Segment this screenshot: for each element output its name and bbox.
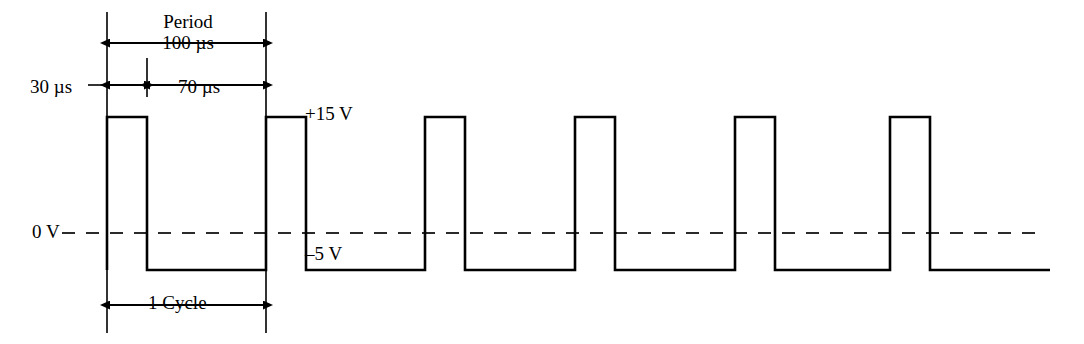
period-value: 100 µs (150, 32, 226, 53)
high-volt-label: +15 V (305, 103, 353, 124)
low-volt-label: –5 V (305, 243, 342, 264)
pulse-width-label: 30 µs (30, 76, 72, 97)
pulse-train-waveform (107, 117, 1050, 270)
cycle-label: 1 Cycle (148, 292, 207, 313)
low-time-label: 70 µs (178, 76, 220, 97)
period-label: Period 100 µs (150, 11, 226, 54)
guide-lines (107, 12, 266, 333)
pulse-waveform-figure: 30 µs 70 µs Period 100 µs 0 V +15 V –5 V… (0, 0, 1084, 344)
zero-volt-label: 0 V (32, 221, 60, 242)
period-name: Period (150, 11, 226, 32)
